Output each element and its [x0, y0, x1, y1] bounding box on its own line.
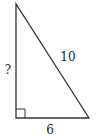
hypotenuse-label: 10: [60, 50, 75, 64]
horizontal-leg-label: 6: [46, 123, 54, 136]
triangle: [16, 4, 89, 118]
vertical-leg-label: ?: [5, 63, 11, 77]
right-triangle-diagram: ? 10 6: [0, 0, 101, 136]
right-angle-marker: [16, 109, 25, 118]
